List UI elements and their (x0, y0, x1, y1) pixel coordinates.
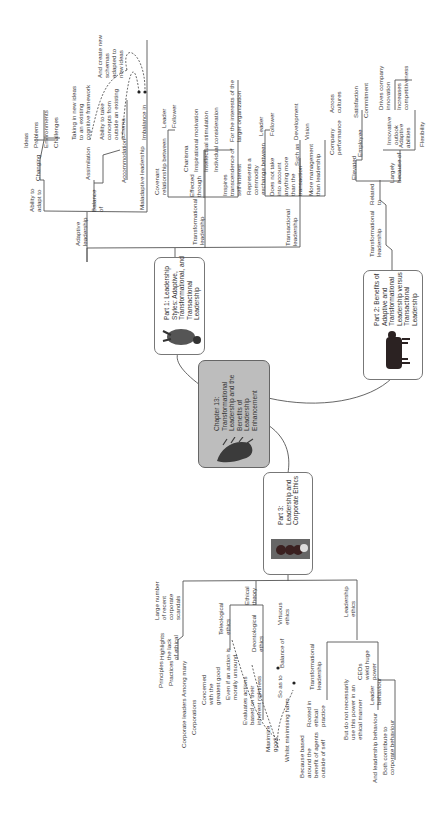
represents-follower: Follower (268, 113, 275, 136)
dog-image-icon (159, 325, 201, 349)
and-leadership-label: And leadership behaviour (371, 713, 378, 783)
maximize-good-label: Maximize good (264, 726, 278, 752)
inspires-label: Inspires transcendence of self-interest (221, 149, 242, 196)
scandals-label: Large number of recent corporate scandal… (153, 581, 181, 620)
practices-label: Practices (167, 661, 174, 686)
both-contribute-label: Both contribute to corporate behaviour (381, 720, 395, 775)
evaluates-label: Evaluates actions based on their inheren… (241, 676, 262, 725)
largely-because-label: Largely because of (388, 153, 402, 183)
principles-label: Principles (157, 661, 164, 688)
part2-title: Part 2: Benefits of Adaptive and Transfo… (373, 272, 419, 326)
ceos-label: CEOs wield huge power (356, 650, 377, 680)
because-based-label: Because based around the benefit of agen… (298, 732, 326, 778)
deontological-ethics-label: Deontological ethics (250, 615, 264, 653)
commitment-label: Commitment (362, 83, 369, 118)
leadership-ethics-label: Leadership ethics (342, 586, 356, 617)
drives-innovation-label: Drives company innovation (377, 66, 391, 110)
but-not-label: But do not necessarily use this power in… (342, 679, 363, 740)
effected-item: Inspirational motivation (192, 109, 199, 172)
more-management-label: More management than leadership (307, 144, 321, 196)
changing-item: Ideas (22, 133, 29, 148)
transactional-leadership-label: Transactional leadership (284, 209, 298, 246)
represents-label: Represents a commodity exchange between (245, 143, 266, 195)
among-many-label: Among many (180, 661, 187, 697)
coins-image-icon (271, 539, 310, 559)
highlights-label: Highlights the lack of ethical (158, 633, 179, 660)
so-as-to-label: So as to (276, 675, 283, 698)
covenant-follower: Follower (170, 105, 177, 128)
ethical-theory-label: Ethical theory (243, 586, 257, 605)
across-cultures-label: Across cultures (328, 91, 342, 113)
corporate-leaders-label: Corporate leaders (180, 698, 187, 748)
virtuous-ethics-label: Virtuous ethics (276, 602, 290, 625)
porcupine-image-icon (213, 437, 259, 465)
maladaptive-leadership-label: Maladaptive leadership (138, 146, 145, 210)
related-to-label: Related to (368, 184, 382, 205)
part1-topic-box[interactable]: Part 1: Leadership Styles: Adaptive, Tra… (154, 257, 205, 355)
ability-to-adapt-label: Ability to adapt to (28, 189, 42, 212)
accommodation-label: Accommodation (120, 139, 127, 183)
corporations-label: Corporations (190, 700, 197, 735)
part3-title: Part 3: Leadership and Corporate Ethics (277, 476, 300, 525)
assimilation-label: Assimilation (84, 147, 91, 180)
balance-of-label: Balance of (90, 190, 104, 212)
p3-transformational-label: Transformational leadership (308, 644, 322, 690)
satisfaction-label: Satisfaction (352, 86, 359, 118)
cow-image-icon (378, 329, 414, 377)
leader-behaviour-label: Leader behaviour (368, 678, 382, 705)
part2-topic-box[interactable]: Part 2: Benefits of Adaptive and Transfo… (363, 270, 423, 380)
central-topic-title: Chapter 13: Transformational Leadership … (213, 375, 259, 431)
transformational-leadership-label: Transformational leadership (191, 199, 205, 245)
part1-title: Part 1: Leadership Styles: Adaptive, Tra… (163, 256, 201, 320)
flexibility-label: Flexibility (418, 122, 425, 147)
whilst-minimising-label: Whilst minimising harm (283, 698, 290, 762)
covenant-label: Covenant relationship between (153, 138, 167, 195)
balance-of-label: Balance of (278, 639, 285, 668)
changing-label: Changing (34, 155, 41, 182)
increases-competitiveness-label: Increases competitiveness (395, 66, 409, 110)
effected-item: Individual consideration (212, 107, 219, 172)
rooted-label: Rooted in ethical practice (305, 701, 326, 728)
imbalance-in-label: Imbalance in (140, 105, 147, 140)
p2-transformational-label: Transformational leadership (368, 211, 382, 257)
effected-item: Charisma (182, 146, 189, 172)
vision-label: Vision (303, 123, 310, 140)
larger-org-label: For the interests of the larger organiza… (228, 80, 242, 142)
changing-item: Problems (32, 122, 39, 148)
elevated-label: Elevated (350, 156, 357, 180)
create-new-schemas-label: And create new schemas adapted to new id… (96, 35, 124, 78)
company-performance-label: Company performance (328, 120, 342, 155)
teleological-ethics-label: Teleological ethics (217, 603, 231, 635)
covenant-leader: Leader (160, 109, 167, 128)
employee-label: Employee (356, 129, 363, 157)
accommodation-desc: Ability to take concepts from outside an… (98, 89, 126, 140)
effected-item: Intellectual stimulation (202, 111, 209, 172)
represents-leader: Leader (257, 117, 264, 136)
effected-through-label: Effected through (188, 174, 202, 197)
even-if-label: Even if an action is morally unsound (224, 648, 238, 700)
part3-topic-box[interactable]: Part 3: Leadership and Corporate Ethics (263, 472, 313, 575)
adaptive-leadership-label: Adaptive leadership (74, 217, 88, 246)
changing-item: Challenges (52, 117, 59, 148)
central-topic-box[interactable]: Chapter 13: Transformational Leadership … (198, 360, 270, 468)
assimilation-desc: Taking in new ideas to an existing cogni… (70, 85, 91, 140)
concerned-label: Concerned with the greatest good (200, 667, 221, 705)
development-label: Development (292, 104, 299, 140)
such-as-label: Such as (293, 144, 300, 166)
changing-item: Environments (42, 110, 49, 148)
adaptive-abilities-label: Adaptive abilities (397, 124, 411, 148)
